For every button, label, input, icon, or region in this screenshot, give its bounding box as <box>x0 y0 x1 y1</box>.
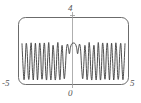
x-axis-max-label: 5 <box>130 79 135 88</box>
plot-figure: -5 5 4 0 <box>0 0 141 103</box>
x-axis-min-label: -5 <box>2 79 10 88</box>
y-axis-max-label: 4 <box>68 4 73 13</box>
data-curve <box>22 42 125 80</box>
origin-label: 0 <box>68 89 73 98</box>
